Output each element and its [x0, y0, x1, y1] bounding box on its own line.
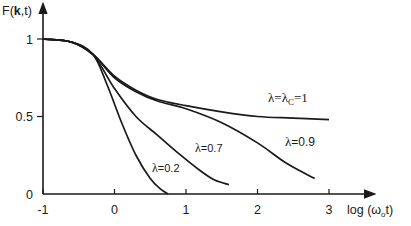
curve-0.2	[43, 39, 168, 194]
curve-0.9	[43, 39, 315, 179]
chart: 00.51 -10123 F(k,t) log (ωot) λ=λC=1 λ=0…	[0, 0, 411, 226]
y-axis-label: F(k,t)	[2, 4, 32, 18]
x-tick-label: 3	[326, 203, 333, 217]
x-tick-label: 2	[254, 203, 261, 217]
x-tick-label: 0	[111, 203, 118, 217]
x-tick-label: 1	[183, 203, 190, 217]
curve-0.7	[43, 39, 229, 185]
label-lambda-0.7: λ=0.7	[195, 141, 223, 155]
label-lambda-1: λ=λC=1	[268, 90, 308, 107]
x-tick-label: -1	[37, 203, 48, 217]
label-lambda-0.9: λ=0.9	[285, 134, 315, 149]
y-tick-label: 0	[26, 188, 33, 202]
y-ticks: 00.51	[16, 33, 43, 202]
curve-c1	[43, 39, 329, 120]
y-tick-label: 1	[26, 33, 33, 47]
curves	[43, 39, 329, 194]
x-axis-label: log (ωot)	[347, 203, 393, 219]
y-tick-label: 0.5	[16, 110, 33, 124]
label-lambda-0.2: λ=0.2	[152, 161, 180, 175]
